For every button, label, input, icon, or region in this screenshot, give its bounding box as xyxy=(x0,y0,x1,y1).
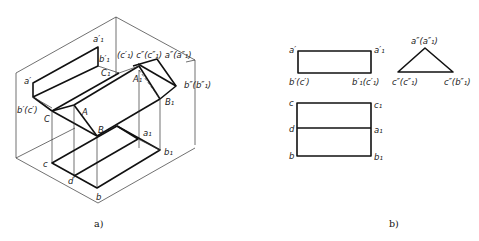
label-a1: a₁ xyxy=(374,125,383,135)
label-b1-prime: b′₁ xyxy=(99,54,110,64)
label-b-prime-c: b′(c′) xyxy=(17,105,38,115)
front-view: a′ a′₁ b′(c′) b′₁(c′₁) xyxy=(289,45,385,87)
label-a-prime: a′ xyxy=(289,45,296,55)
label-B: B xyxy=(98,125,104,135)
label-C1: C₁ xyxy=(101,68,110,78)
label-a1-prime: a′₁ xyxy=(93,34,104,44)
label-c1-group: (c′₁) c″(c″₁) a″(a″₁) xyxy=(117,50,192,60)
label-b1: b₁ xyxy=(164,147,173,157)
label-side-right: c″(b″₁) xyxy=(444,77,470,87)
label-C: C xyxy=(44,114,50,124)
label-a1: a₁ xyxy=(143,128,152,138)
diagram-canvas: a′₁ (c′₁) c″(c″₁) a″(a″₁) b′₁ C₁ a′ A₁ b… xyxy=(0,0,479,241)
caption-b: b) xyxy=(389,218,399,229)
label-b1-prime-c1: b′₁(c′₁) xyxy=(352,77,379,87)
label-side-left: c″(c″₁) xyxy=(392,77,418,87)
label-b-dprime: b″(b″₁) xyxy=(184,80,211,90)
label-b: b xyxy=(289,151,294,161)
side-view: a″(a″₁) c″(c″₁) c″(b″₁) xyxy=(392,36,470,87)
label-c: c xyxy=(43,159,48,169)
label-d: d xyxy=(289,124,295,134)
label-A1: A₁ xyxy=(132,74,142,84)
label-side-apex: a″(a″₁) xyxy=(411,36,438,46)
label-B1: B₁ xyxy=(165,97,174,107)
projection-frame xyxy=(16,17,195,203)
top-view: c c₁ d a₁ b b₁ xyxy=(289,98,383,162)
label-A: A xyxy=(81,107,88,117)
label-b-prime-c: b′(c′) xyxy=(289,77,310,87)
label-b1: b₁ xyxy=(374,152,383,162)
caption-a: a) xyxy=(94,218,103,229)
label-a1-prime: a′₁ xyxy=(374,45,385,55)
projectors xyxy=(16,70,160,188)
label-b: b xyxy=(96,192,101,202)
label-a-prime: a′ xyxy=(24,76,31,86)
label-d: d xyxy=(68,176,74,186)
label-c1: c₁ xyxy=(374,100,382,110)
label-c: c xyxy=(289,98,294,108)
roof-solid xyxy=(52,59,176,136)
figure-a: a′₁ (c′₁) c″(c″₁) a″(a″₁) b′₁ C₁ a′ A₁ b… xyxy=(16,17,211,229)
figure-b: a′ a′₁ b′(c′) b′₁(c′₁) a″(a″₁) c″(c″₁) c… xyxy=(289,36,470,229)
